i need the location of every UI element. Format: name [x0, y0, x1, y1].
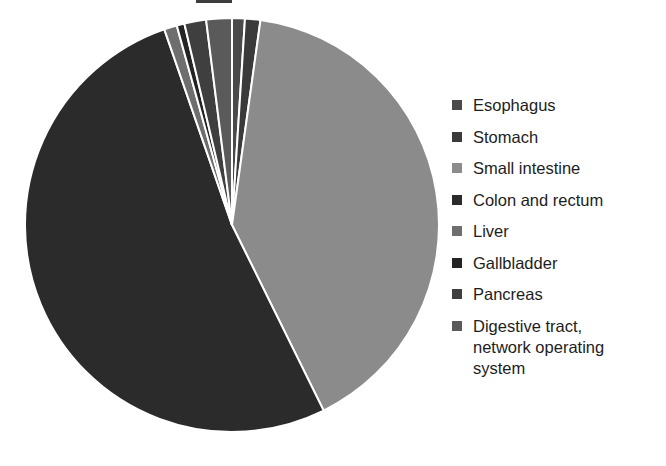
- legend-item-label: Small intestine: [473, 158, 580, 179]
- legend-item[interactable]: Gallbladder: [452, 253, 662, 274]
- chart-legend: EsophagusStomachSmall intestineColon and…: [452, 95, 662, 389]
- pie-slice-group: [25, 18, 439, 432]
- pie-chart-plot-area: [0, 0, 450, 466]
- legend-item[interactable]: Liver: [452, 221, 662, 242]
- pie-chart-figure: EsophagusStomachSmall intestineColon and…: [0, 0, 666, 466]
- legend-item[interactable]: Digestive tract, network operating syste…: [452, 316, 662, 379]
- legend-item-label: Pancreas: [473, 284, 543, 305]
- legend-item[interactable]: Stomach: [452, 127, 662, 148]
- legend-item[interactable]: Small intestine: [452, 158, 662, 179]
- legend-item[interactable]: Esophagus: [452, 95, 662, 116]
- legend-item-label: Esophagus: [473, 95, 556, 116]
- legend-color-swatch-icon: [452, 163, 462, 173]
- legend-item-label: Gallbladder: [473, 253, 557, 274]
- legend-color-swatch-icon: [452, 321, 462, 331]
- legend-item[interactable]: Pancreas: [452, 284, 662, 305]
- legend-color-swatch-icon: [452, 289, 462, 299]
- legend-color-swatch-icon: [452, 258, 462, 268]
- legend-color-swatch-icon: [452, 100, 462, 110]
- legend-item-label: Colon and rectum: [473, 190, 603, 211]
- legend-item-label: Liver: [473, 221, 509, 242]
- legend-item-label: Stomach: [473, 127, 538, 148]
- legend-color-swatch-icon: [452, 195, 462, 205]
- legend-item[interactable]: Colon and rectum: [452, 190, 662, 211]
- pie-svg: [0, 0, 450, 466]
- legend-item-label: Digestive tract, network operating syste…: [473, 316, 604, 379]
- legend-color-swatch-icon: [452, 226, 462, 236]
- legend-color-swatch-icon: [452, 132, 462, 142]
